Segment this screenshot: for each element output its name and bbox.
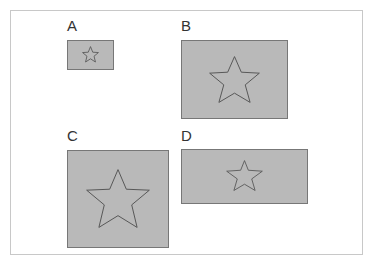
star-icon [68, 41, 113, 69]
panel-c-box [67, 150, 169, 248]
panel-label-c: C [67, 128, 78, 143]
panel-label-b: B [181, 18, 191, 33]
panel-d-box [181, 149, 308, 204]
star-icon [68, 151, 168, 247]
panel-label-a: A [67, 18, 77, 33]
star-icon [182, 150, 307, 203]
panel-a-box [67, 40, 114, 70]
panel-b-box [181, 40, 288, 119]
star-icon [182, 41, 287, 118]
panel-label-d: D [181, 128, 192, 143]
